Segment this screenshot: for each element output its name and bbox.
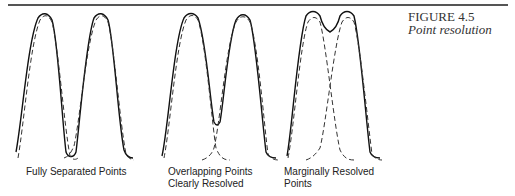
caption-overlapping-resolved: Overlapping Points Clearly Resolved [168,166,253,190]
caption-line: Fully Separated Points [26,166,127,178]
caption-marginally-resolved: Marginally Resolved Points [284,166,374,190]
solid-profiles [16,12,380,159]
figure-label: FIGURE 4.5 Point resolution [408,10,492,36]
caption-line: Marginally Resolved [284,166,374,178]
caption-line: Clearly Resolved [168,178,253,190]
figure-title: Point resolution [408,23,492,36]
caption-line: Points [284,178,374,190]
caption-fully-separated: Fully Separated Points [26,166,127,178]
dashed-profiles [18,16,382,161]
caption-line: Overlapping Points [168,166,253,178]
